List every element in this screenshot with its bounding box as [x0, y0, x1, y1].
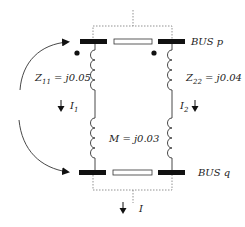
dashed-connection-top [93, 10, 172, 41]
bus-p [80, 39, 185, 44]
coupled-branch-diagram [0, 0, 245, 227]
current-i2-label: I2 [180, 101, 188, 114]
bus-q-label: BUS q [198, 168, 230, 178]
polarity-dot-right [151, 50, 156, 55]
impedance-z22-label: Z22 = j0.04 [186, 73, 242, 86]
polarity-dot-left [74, 50, 79, 55]
bus-p-label: BUS p [191, 37, 223, 47]
current-i-label: I [139, 204, 143, 214]
inductor-right [168, 44, 173, 170]
impedance-z11-label: Z11 = j0.05 [35, 73, 91, 86]
inductor-left [91, 44, 96, 170]
bus-q [79, 170, 185, 175]
current-arrow-i1-icon [58, 100, 65, 112]
dashed-connection-bottom [93, 172, 172, 203]
current-i1-label: I1 [70, 101, 78, 114]
current-arrow-i2-icon [192, 100, 199, 112]
mutual-inductance-label: M = j0.03 [109, 134, 159, 144]
curved-arrow-to-bus-q [19, 120, 68, 172]
current-arrow-i-icon [120, 202, 127, 214]
